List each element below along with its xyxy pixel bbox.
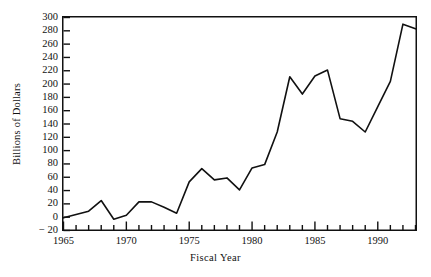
y-tick-label: 280 (12, 25, 58, 35)
y-tick-label: 260 (12, 39, 58, 49)
plot-frame (63, 17, 417, 231)
plot-area (62, 16, 417, 238)
data-series-line (64, 24, 416, 219)
chart-figure: Billions of Dollars Fiscal Year 30028026… (0, 0, 431, 277)
y-tick-label: 0 (12, 212, 58, 222)
y-axis-ticks (64, 18, 71, 231)
y-tick-label: − 20 (12, 225, 58, 235)
y-axis-title: Billions of Dollars (8, 54, 24, 194)
y-tick-label: 300 (12, 12, 58, 22)
y-tick-label: 20 (12, 198, 58, 208)
x-axis-title: Fiscal Year (0, 252, 431, 263)
x-axis-ticks (64, 222, 416, 231)
line-chart-svg (62, 16, 417, 238)
